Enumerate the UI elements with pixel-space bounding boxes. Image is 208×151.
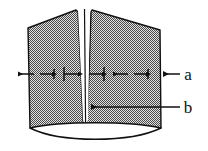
technical-diagram-figure: a b bbox=[0, 0, 208, 151]
callout-b-label: b bbox=[184, 98, 193, 117]
left-specimen-block bbox=[28, 10, 84, 128]
right-specimen-block bbox=[87, 10, 161, 128]
diagram-canvas: a b bbox=[0, 0, 208, 151]
specimen-base-curve bbox=[30, 123, 161, 140]
callout-a-label: a bbox=[184, 65, 192, 84]
callout-a: a bbox=[163, 65, 192, 84]
